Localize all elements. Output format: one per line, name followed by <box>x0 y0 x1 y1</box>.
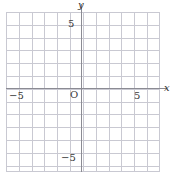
grid-right-edge <box>159 12 160 172</box>
x-axis-label: x <box>164 83 170 93</box>
y-axis-tick-positive-5: 5 <box>68 19 74 29</box>
coordinate-plane-graph: y x −5 5 5 −5 O <box>0 0 174 177</box>
grid-bottom-edge <box>6 171 160 172</box>
y-axis-label: y <box>78 0 84 10</box>
x-axis-line <box>6 88 167 89</box>
y-axis-line <box>81 4 82 172</box>
origin-label: O <box>70 90 78 100</box>
x-axis-tick-negative-5: −5 <box>9 91 24 101</box>
y-axis-tick-negative-5: −5 <box>61 153 76 163</box>
x-axis-tick-positive-5: 5 <box>134 91 140 101</box>
